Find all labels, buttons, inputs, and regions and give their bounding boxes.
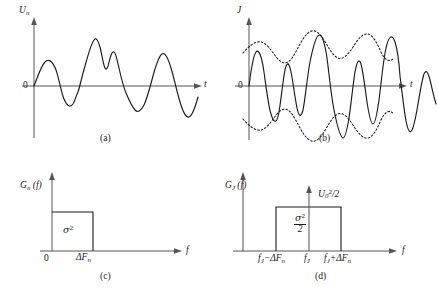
panel-b-plot (219, 0, 438, 151)
panel-a-x-axis-label: t (204, 80, 207, 90)
panel-a-y-axis-label: Un (19, 6, 29, 17)
panel-d-y-arrowhead (240, 172, 246, 180)
panel-d-carrier-impulse-arrowhead (306, 185, 312, 193)
panel-d-box-value-label: σ2 2 (294, 213, 306, 234)
panel-b-caption: (b) (319, 133, 330, 143)
panel-a-origin-label: 0 (23, 80, 28, 90)
panel-c-origin-label: 0 (44, 253, 49, 263)
panel-b-y-axis-label: J (237, 6, 241, 16)
panel-d-impulse-label: U02/2 (318, 189, 339, 200)
figure-container: Un 0 t (a) J 0 t (b) Gn (f) 0 σ2 (0, 0, 438, 303)
panel-d-x-tick-right: fJ+ΔFn (324, 254, 351, 265)
panel-a: Un 0 t (a) (0, 0, 219, 151)
panel-d-x-tick-mid: fJ (304, 254, 310, 265)
panel-c-x-axis-label: f (186, 246, 189, 256)
panel-b: J 0 t (b) (219, 0, 438, 151)
panel-c-y-axis-label: Gn (f) (20, 181, 42, 192)
panel-c: Gn (f) 0 σ2 ΔFn f (c) (0, 151, 219, 303)
panel-a-y-arrowhead (31, 17, 37, 25)
panel-d-y-axis-label: GJ (f) (225, 181, 246, 192)
panel-a-caption: (a) (100, 133, 111, 143)
panel-c-x-tick-delta-f: ΔFn (76, 253, 91, 264)
panel-d-x-axis-label: f (402, 246, 405, 256)
panel-d-x-arrowhead (389, 248, 397, 254)
panel-b-x-axis-label: t (410, 80, 413, 90)
panel-a-noise-waveform (34, 39, 198, 117)
panel-b-y-arrowhead (246, 17, 252, 25)
panel-d-x-tick-left: fJ−ΔFn (258, 254, 285, 265)
panel-a-plot (0, 0, 219, 151)
panel-d: GJ (f) U02/2 σ2 2 fJ−ΔFn fJ fJ+ΔFn f (d) (219, 151, 438, 303)
panel-b-x-arrowhead (399, 83, 407, 89)
panel-c-x-arrowhead (174, 248, 182, 254)
panel-c-box-value-label: σ2 (63, 225, 73, 236)
panel-c-y-arrowhead (49, 172, 55, 180)
panel-b-origin-label: 0 (238, 80, 243, 90)
panel-d-plot (219, 151, 438, 303)
panel-c-caption: (c) (100, 271, 111, 281)
panel-d-caption: (d) (315, 271, 326, 281)
panel-a-x-arrowhead (194, 83, 202, 89)
